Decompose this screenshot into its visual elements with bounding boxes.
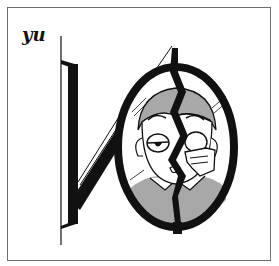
cracked-mirror-illustration xyxy=(0,0,279,266)
mirror-post xyxy=(173,222,182,234)
